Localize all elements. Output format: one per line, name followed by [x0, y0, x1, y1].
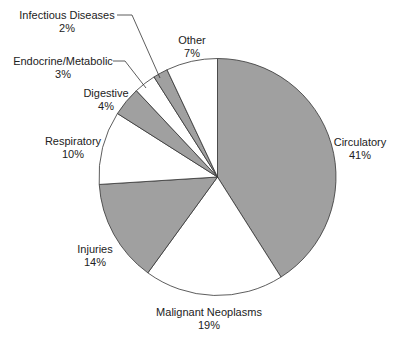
label-circulatory: Circulatory41%: [334, 136, 387, 162]
leader-line-endocrine: [113, 61, 146, 88]
label-respiratory: Respiratory10%: [45, 135, 101, 161]
leader-line-infectious: [117, 15, 160, 78]
label-injuries: Injuries14%: [77, 243, 112, 269]
label-other: Other7%: [178, 34, 206, 60]
label-malignant-neoplasms: Malignant Neoplasms19%: [156, 306, 262, 332]
label-digestive: Digestive4%: [83, 87, 128, 113]
label-endocrine-metabolic: Endocrine/Metabolic3%: [13, 55, 113, 81]
label-infectious-diseases: Infectious Diseases2%: [19, 9, 114, 35]
